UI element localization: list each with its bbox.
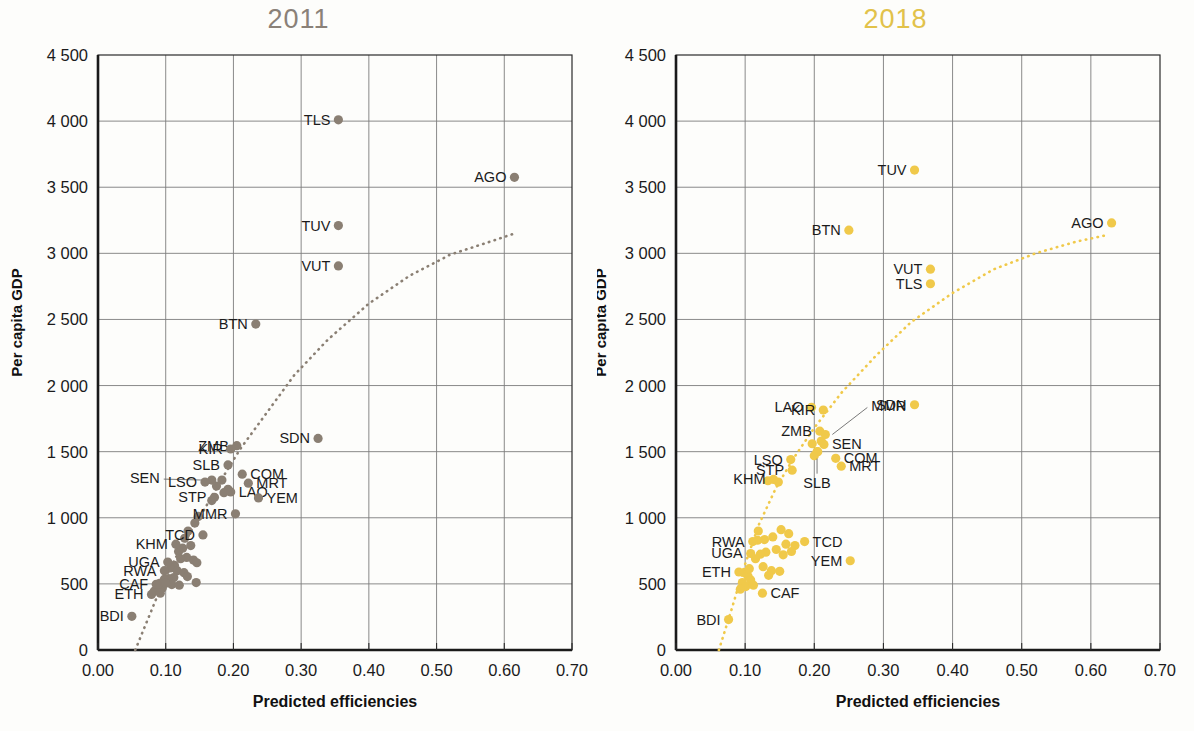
- data-point-lao: [226, 487, 235, 496]
- y-tick-label: 4 000: [625, 112, 666, 130]
- data-point-stp: [210, 493, 219, 502]
- point-label-tls: TLS: [896, 276, 923, 292]
- y-tick-label: 3 500: [625, 178, 666, 196]
- point-label-btn: BTN: [812, 222, 841, 238]
- data-point-sdn: [910, 400, 919, 409]
- trendline: [135, 234, 514, 651]
- y-tick-label: 3 000: [625, 244, 666, 262]
- point-label-stp: STP: [178, 489, 206, 505]
- point-label-eth: ETH: [702, 564, 731, 580]
- x-tick-label: 0.60: [488, 661, 520, 679]
- point-label-lso: LSO: [168, 474, 197, 490]
- data-point-uga: [746, 549, 755, 558]
- data-point-mmr: [821, 430, 830, 439]
- data-point-uga: [163, 557, 172, 566]
- data-point: [808, 439, 817, 448]
- data-point-mrt: [837, 462, 846, 471]
- data-point-kir: [226, 444, 235, 453]
- y-tick-label: 1 500: [47, 443, 88, 461]
- x-tick-label: 0.60: [1075, 661, 1107, 679]
- data-point-ago: [510, 173, 519, 182]
- point-label-kir: KIR: [791, 402, 815, 418]
- data-point: [784, 529, 793, 538]
- point-label-eth: ETH: [114, 586, 143, 602]
- data-point: [775, 567, 784, 576]
- x-tick-label: 0.50: [421, 661, 453, 679]
- data-point-stp: [788, 466, 797, 475]
- x-tick-label: 0.00: [660, 661, 692, 679]
- y-tick-label: 0: [79, 641, 88, 659]
- point-label-khm: KHM: [136, 536, 168, 552]
- data-point-btn: [844, 226, 853, 235]
- plot-frame: [676, 55, 1160, 650]
- point-label-yem: YEM: [811, 553, 842, 569]
- data-point-ago: [1107, 218, 1116, 227]
- x-tick-label: 0.30: [867, 661, 899, 679]
- point-label-kir: KIR: [199, 441, 223, 457]
- scatter-plot-2011: 05001 0001 5002 0002 5003 0003 5004 0004…: [0, 0, 597, 731]
- data-point-kir: [819, 405, 828, 414]
- data-point: [161, 579, 170, 588]
- x-tick-label: 0.70: [556, 661, 588, 679]
- data-point-lso: [200, 477, 209, 486]
- point-label-caf: CAF: [770, 585, 799, 601]
- data-point-tuv: [334, 221, 343, 230]
- data-point-khm: [769, 475, 778, 484]
- data-point-yem: [254, 493, 263, 502]
- y-tick-label: 500: [638, 575, 666, 593]
- y-tick-label: 2 500: [47, 310, 88, 328]
- data-point: [759, 562, 768, 571]
- point-label-zmb: ZMB: [781, 423, 812, 439]
- point-label-ago: AGO: [1071, 215, 1103, 231]
- data-point-vut: [334, 261, 343, 270]
- y-tick-label: 0: [657, 641, 666, 659]
- data-point-caf: [758, 589, 767, 598]
- point-label-uga: UGA: [711, 545, 743, 561]
- point-label-slb: SLB: [193, 457, 220, 473]
- data-point-rwa: [160, 566, 169, 575]
- point-label-bdi: BDI: [100, 608, 124, 624]
- point-label-tcd: TCD: [165, 527, 195, 543]
- point-label-tuv: TUV: [301, 218, 330, 234]
- y-tick-label: 1 000: [47, 509, 88, 527]
- y-tick-label: 4 500: [625, 46, 666, 64]
- data-point-tls: [334, 115, 343, 124]
- x-tick-label: 0.20: [217, 661, 249, 679]
- point-label-btn: BTN: [219, 316, 248, 332]
- data-point-sen: [819, 440, 828, 449]
- point-label-khm: KHM: [733, 471, 765, 487]
- x-tick-label: 0.10: [729, 661, 761, 679]
- point-label-yem: YEM: [266, 490, 297, 506]
- data-point: [754, 526, 763, 535]
- x-axis-title: Predicted efficiencies: [253, 693, 418, 710]
- x-tick-label: 0.40: [353, 661, 385, 679]
- point-label-mrt: MRT: [849, 458, 880, 474]
- y-tick-label: 3 500: [47, 178, 88, 196]
- data-point-caf: [152, 580, 161, 589]
- data-point: [768, 532, 777, 541]
- data-point: [787, 547, 796, 556]
- data-point-com: [238, 470, 247, 479]
- point-label-tcd: TCD: [813, 534, 843, 550]
- x-tick-label: 0.10: [150, 661, 182, 679]
- data-point-tcd: [198, 530, 207, 539]
- data-point-bdi: [724, 615, 733, 624]
- data-point-slb: [812, 447, 821, 456]
- point-label-tuv: TUV: [878, 162, 907, 178]
- data-point: [156, 589, 165, 598]
- data-point-btn: [251, 319, 260, 328]
- point-label-slb: SLB: [803, 475, 830, 491]
- data-point-rwa: [748, 537, 757, 546]
- point-label-lao: LAO: [239, 484, 268, 500]
- data-point-lso: [786, 455, 795, 464]
- data-point: [183, 572, 192, 581]
- y-tick-label: 2 500: [625, 310, 666, 328]
- y-tick-label: 2 000: [47, 377, 88, 395]
- data-point: [764, 571, 773, 580]
- point-label-mmr: MMR: [871, 398, 906, 414]
- data-point-slb: [223, 460, 232, 469]
- y-tick-label: 500: [60, 575, 88, 593]
- point-label-vut: VUT: [301, 258, 330, 274]
- y-tick-label: 1 000: [625, 509, 666, 527]
- data-point-khm: [171, 540, 180, 549]
